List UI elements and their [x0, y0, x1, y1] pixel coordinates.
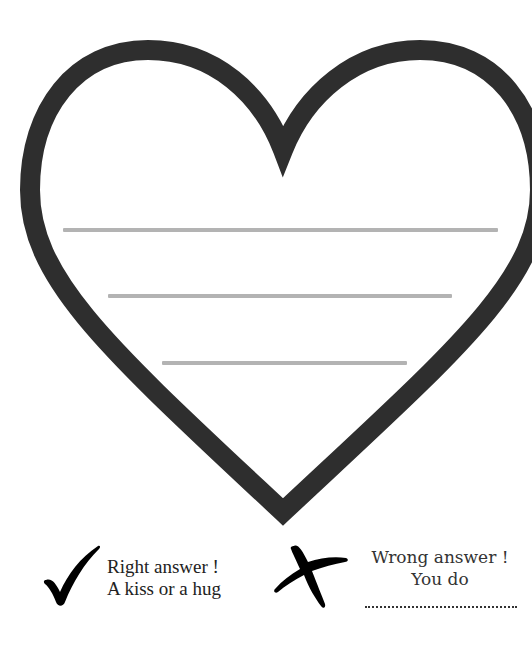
fill-in-blank-line[interactable]: [365, 606, 517, 608]
right-answer-line2: A kiss or a hug: [107, 578, 257, 600]
writing-line-2[interactable]: [108, 294, 452, 298]
cross-mark-icon: [272, 540, 352, 610]
wrong-answer-line2: You do: [360, 568, 520, 590]
right-answer-line1: Right answer !: [107, 556, 257, 578]
writing-line-1[interactable]: [63, 228, 498, 232]
wrong-answer-line1: Wrong answer !: [360, 546, 520, 568]
check-mark-icon: [38, 540, 108, 610]
worksheet: Right answer ! A kiss or a hug Wrong ans…: [0, 0, 532, 649]
writing-line-3[interactable]: [162, 361, 407, 365]
right-answer-caption: Right answer ! A kiss or a hug: [107, 556, 257, 600]
wrong-answer-caption: Wrong answer ! You do: [360, 546, 520, 590]
